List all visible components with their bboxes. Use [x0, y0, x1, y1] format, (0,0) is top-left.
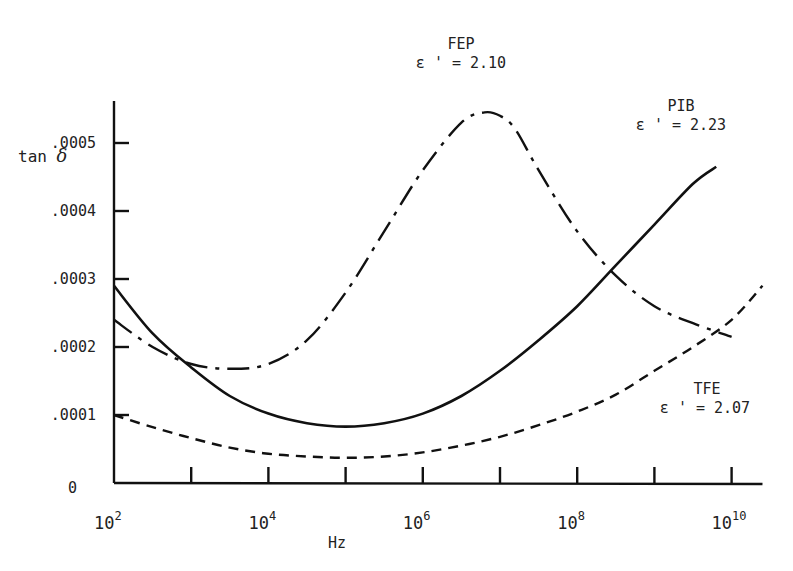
chart-canvas	[0, 0, 793, 571]
x-axis-label: Hz	[328, 536, 346, 551]
x-tick-label: 104	[248, 512, 276, 532]
annotation-fep: FEP ε ' = 2.10	[396, 35, 526, 73]
series-line-tfe	[114, 286, 763, 458]
x-axis-line	[114, 483, 762, 484]
x-tick-label: 102	[94, 512, 122, 532]
annotation-pib-eps: ε ' = 2.23	[616, 116, 746, 135]
annotation-pib-name: PIB	[616, 97, 746, 116]
annotation-fep-eps: ε ' = 2.10	[396, 54, 526, 73]
y-tick-label: .0004	[26, 204, 96, 219]
annotation-pib: PIB ε ' = 2.23	[616, 97, 746, 135]
annotation-tfe-eps: ε ' = 2.07	[650, 399, 760, 418]
annotation-fep-name: FEP	[396, 35, 526, 54]
x-tick-label: 106	[403, 512, 431, 532]
x-tick-label: 1010	[712, 512, 747, 532]
annotation-tfe-name: TFE	[650, 380, 760, 399]
x-tick-label: 108	[557, 512, 585, 532]
annotation-tfe: TFE ε ' = 2.07	[650, 380, 760, 418]
y-tick-label: .0003	[26, 272, 96, 287]
axes	[114, 101, 762, 484]
y-tick-label: .0001	[26, 408, 96, 423]
y-tick-label: .0002	[26, 340, 96, 355]
y-tick-label: .0005	[26, 136, 96, 151]
y-tick-label: 0	[0, 481, 77, 496]
